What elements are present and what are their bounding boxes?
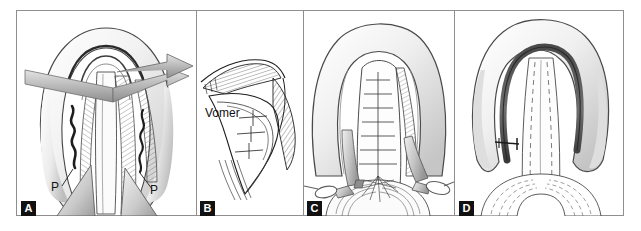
annotation-p-right: P: [150, 183, 158, 197]
relaxing-incision-right: [139, 110, 144, 172]
panel-a: P P: [17, 10, 196, 216]
panel-label-a: A: [21, 201, 36, 216]
panel-c: [304, 10, 454, 216]
central-flap: [357, 61, 401, 187]
panel-d: [455, 10, 623, 216]
retractor-tip-shadow: [354, 180, 364, 188]
annotation-vomer: Vomer: [205, 106, 240, 120]
panel-label-c: C: [307, 201, 322, 216]
panel-a-illustration: [17, 10, 196, 216]
nasal-floor-hatched: [203, 64, 281, 94]
annotation-p-left: P: [51, 180, 59, 194]
relaxing-incision-left: [71, 106, 76, 168]
panel-c-illustration: [304, 10, 454, 216]
figure-panel-group: P P: [0, 0, 641, 231]
panel-label-d: D: [459, 201, 474, 216]
panel-label-b: B: [200, 201, 215, 216]
panel-b: Vomer: [197, 10, 303, 216]
panel-d-illustration: [455, 10, 623, 216]
